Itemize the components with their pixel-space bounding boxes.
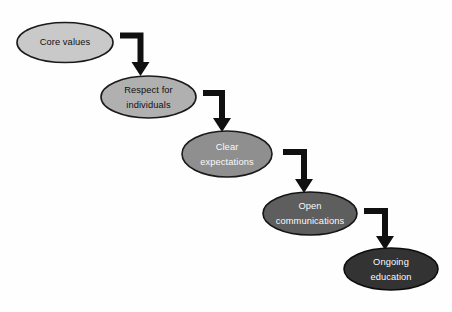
node-label-clear-line2: expectations [200, 157, 254, 167]
node-label-ongoing-line1: Ongoing [373, 257, 409, 267]
node-shape-ellipse [344, 248, 438, 290]
node-label-respect-line1: Respect for [124, 85, 173, 95]
node-label-core-values: Core values [40, 37, 91, 47]
node-label-respect-line2: individuals [126, 100, 171, 110]
diagram-canvas: Core values Respect for individuals Clea… [0, 0, 452, 312]
node-shape-ellipse [263, 192, 357, 235]
node-core-values[interactable]: Core values [17, 23, 113, 63]
elbow-arrow-icon [203, 90, 231, 132]
node-shape-ellipse [101, 76, 196, 118]
elbow-arrow-icon [120, 33, 150, 77]
node-label-open-line1: Open [298, 201, 321, 211]
node-label-open-line2: communications [276, 216, 345, 226]
node-label-clear-line1: Clear [216, 142, 239, 152]
node-ongoing-education[interactable]: Ongoing education [344, 248, 438, 290]
node-respect-for-individuals[interactable]: Respect for individuals [101, 76, 196, 118]
elbow-arrow-icon [364, 208, 394, 250]
cascade-flowchart: Core values Respect for individuals Clea… [0, 0, 452, 312]
elbow-arrow-icon [283, 149, 313, 193]
connector-clear-to-open [283, 149, 313, 193]
connector-core-values-to-respect [120, 33, 150, 77]
node-label-ongoing-line2: education [370, 272, 411, 282]
node-open-communications[interactable]: Open communications [263, 192, 357, 235]
connector-open-to-ongoing [364, 208, 394, 250]
node-clear-expectations[interactable]: Clear expectations [182, 131, 272, 177]
connector-respect-to-clear [203, 90, 231, 132]
node-shape-ellipse [182, 131, 272, 177]
